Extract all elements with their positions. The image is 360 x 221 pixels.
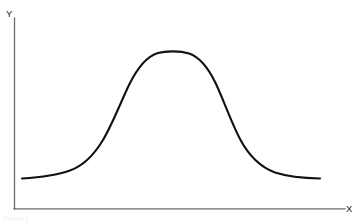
- figure-container: Y X Figure 1: [0, 0, 360, 221]
- y-axis-label: Y: [6, 8, 13, 19]
- bell-curve-chart: Y X: [0, 0, 360, 221]
- bell-curve-path: [22, 51, 320, 178]
- cropped-caption-remnant: Figure 1: [3, 216, 123, 221]
- x-axis-label: X: [346, 203, 353, 214]
